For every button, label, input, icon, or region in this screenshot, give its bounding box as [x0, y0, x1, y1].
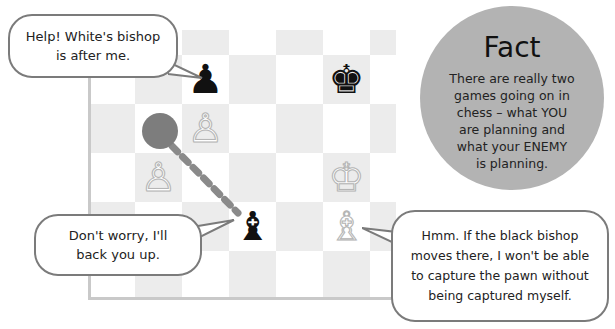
pawn-speech-bubble: Help! White's bishop is after me. — [8, 14, 178, 78]
white-bishop-speech-bubble: Hmm. If the black bishop moves there, I … — [391, 210, 609, 322]
black-bishop-speech-bubble: Don't worry, I'll back you up. — [34, 214, 202, 276]
fact-circle: Fact There are really two games going on… — [420, 6, 604, 190]
fact-title: Fact — [420, 32, 604, 64]
fact-body: There are really two games going on in c… — [420, 70, 604, 172]
bubble-tail — [196, 218, 236, 242]
move-target-marker — [142, 113, 178, 149]
